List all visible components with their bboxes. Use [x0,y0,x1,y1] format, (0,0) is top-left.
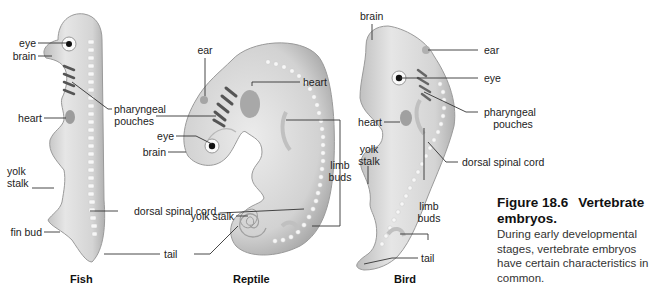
bird-label-buds: buds [416,212,442,224]
bird-label-pouches: pouches [484,118,542,130]
figure-caption: Figure 18.6Vertebrate embryos. During ea… [497,195,653,285]
reptile-label-tail: tail [164,248,177,260]
bird-label-eye: eye [484,72,501,84]
fish-label-eye: eye [6,37,36,49]
fish-label-heart: heart [0,112,42,124]
fish-label-stalk: stalk [7,177,29,189]
caption-body: During early developmental stages, verte… [497,227,653,285]
bird-label-tail: tail [421,252,434,264]
bird-label-stalk: stalk [356,155,382,167]
reptile-label-pouches: pouches [112,115,154,127]
bird-label-ear: ear [484,44,499,56]
bird-name: Bird [394,273,416,285]
reptile-label-buds: buds [328,171,352,183]
bird-label-yolk: yolk [356,143,382,155]
reptile-label-eye: eye [140,130,174,142]
bird-label-heart: heart [346,116,382,128]
reptile-label-limb: limb [328,159,352,171]
reptile-label-brain: brain [130,146,166,158]
bird-label-pharyngeal: pharyngeal [484,106,536,118]
bird-label-limb: limb [416,200,442,212]
fish-label-brain: brain [0,50,36,62]
fish-label-yolk: yolk [7,165,26,177]
reptile-label-dorsal-spinal-cord: dorsal spinal cord [134,205,216,217]
reptile-label-ear: ear [195,44,215,56]
reptile-name: Reptile [233,273,270,285]
fish-label-fin-bud: fin bud [0,226,42,238]
reptile-embryo [156,43,340,255]
reptile-label-heart: heart [303,76,327,88]
figure-number: Figure 18.6 [497,195,568,210]
caption-title: Figure 18.6Vertebrate embryos. [497,195,653,227]
reptile-label-pharyngeal: pharyngeal [114,103,166,115]
fish-name: Fish [70,273,93,285]
bird-label-brain: brain [360,10,383,22]
bird-label-dorsal-spinal-cord: dorsal spinal cord [462,156,544,168]
